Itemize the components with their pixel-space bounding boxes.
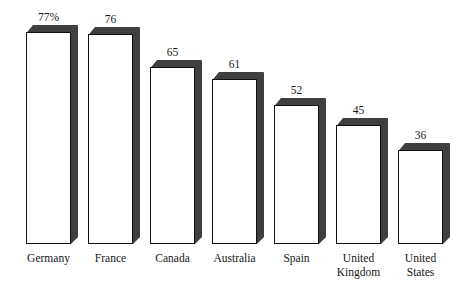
bar-category-label: United States (385, 252, 456, 279)
bar-value-label: 61 (202, 58, 267, 70)
bar-front-face[interactable] (26, 32, 71, 244)
bar-side-face (257, 72, 264, 244)
bar-side-face (71, 25, 78, 244)
bar-value-label: 65 (140, 46, 205, 58)
bar-category-label: United Kingdom (323, 252, 394, 279)
bar-category-label: Germany (13, 252, 84, 266)
bar-value-label: 45 (326, 104, 391, 116)
bar-category-label: Canada (137, 252, 208, 266)
bar-side-face (443, 143, 450, 244)
bar-front-face[interactable] (88, 34, 133, 244)
bar-category-label: France (75, 252, 146, 266)
bar-side-face (133, 27, 140, 244)
bar-front-face[interactable] (398, 150, 443, 244)
bar-category-label: Spain (261, 252, 332, 266)
bar-side-face (319, 98, 326, 244)
bar-front-face[interactable] (212, 79, 257, 244)
bar-front-face[interactable] (274, 105, 319, 244)
bar-chart: 77%Germany76France65Canada61Australia52S… (0, 0, 468, 287)
bar-front-face[interactable] (336, 125, 381, 244)
bar-side-face (195, 60, 202, 244)
bar-side-face (381, 118, 388, 244)
bar-value-label: 77% (16, 11, 81, 23)
bar-value-label: 52 (264, 84, 329, 96)
bar-front-face[interactable] (150, 67, 195, 244)
bar-value-label: 76 (78, 13, 143, 25)
bar-value-label: 36 (388, 129, 453, 141)
bar-category-label: Australia (199, 252, 270, 266)
